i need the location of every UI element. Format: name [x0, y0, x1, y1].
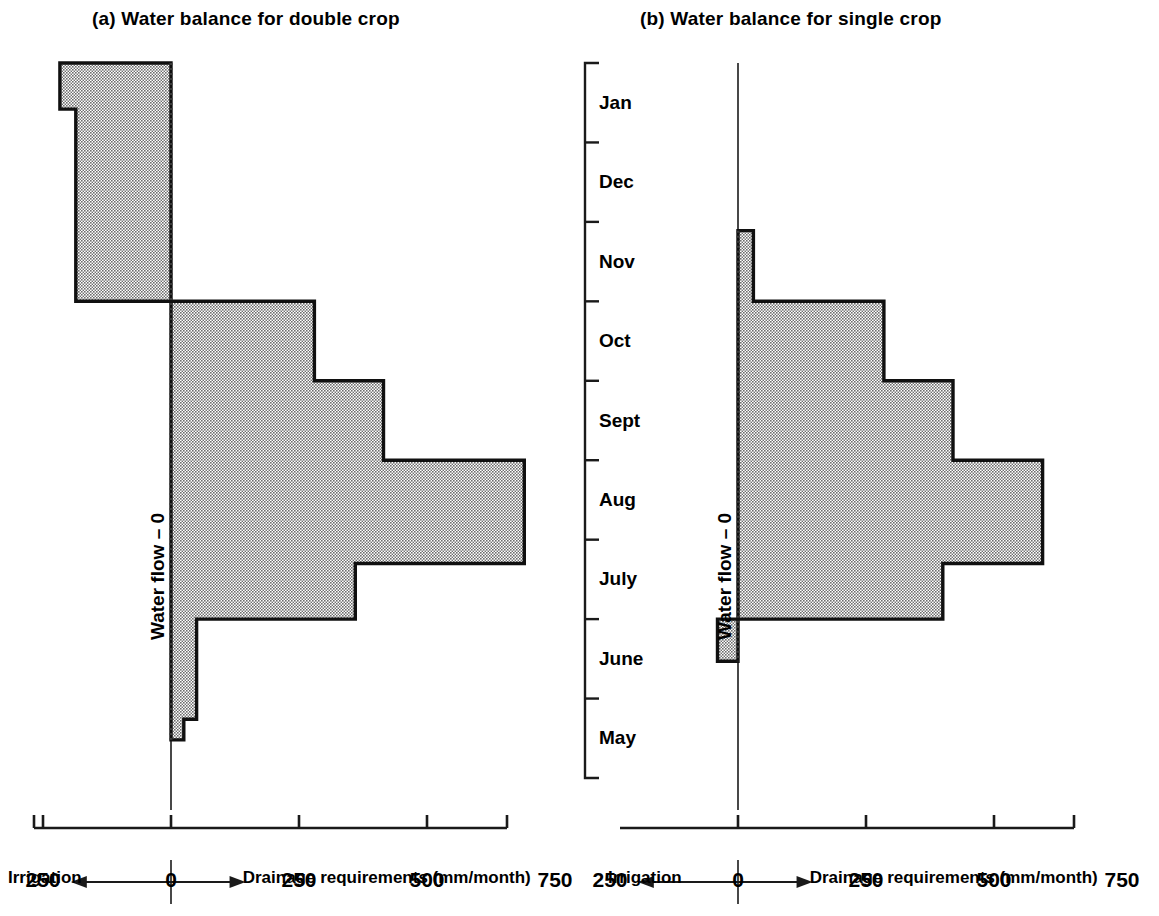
water-balance-area: [60, 63, 524, 740]
chart-a-canvas: [0, 0, 580, 916]
x-tick-label: 0: [165, 868, 177, 892]
water-flow-zero-label: Water flow – 0: [714, 513, 736, 640]
water-flow-zero-label: Water flow – 0: [147, 513, 169, 640]
figure-root: (a) Water balance for double crop 250025…: [0, 0, 1159, 916]
panel-double-crop: (a) Water balance for double crop 250025…: [0, 0, 580, 916]
irrigation-axis-caption: Irrigation: [8, 868, 82, 888]
drainage-axis-caption: Drainage requirements (mm/month): [243, 868, 531, 888]
drainage-axis-caption: Drainage requirements (mm/month): [810, 868, 1098, 888]
chart-b-canvas: [620, 0, 1159, 916]
irrigation-axis-caption: Irrigation: [608, 868, 682, 888]
month-bracket-outline: [585, 63, 599, 778]
x-tick-label: 750: [537, 868, 572, 892]
water-balance-area: [718, 231, 1043, 662]
panel-single-crop: (b) Water balance for single crop 250025…: [620, 0, 1159, 916]
x-tick-label: 750: [1104, 868, 1139, 892]
x-tick-label: 0: [732, 868, 744, 892]
